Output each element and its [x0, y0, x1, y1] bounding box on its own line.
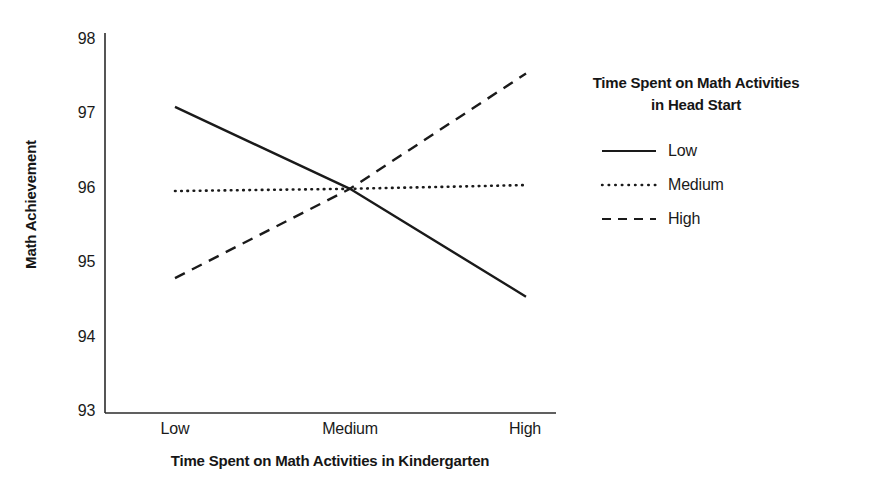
legend-entry-low[interactable]: Low — [600, 138, 697, 164]
legend-title-line-1: Time Spent on Math Activities — [536, 72, 856, 94]
legend-entry-medium[interactable]: Medium — [600, 172, 724, 198]
line-chart-figure: Math Achievement 98 97 96 95 94 93 Low M… — [0, 0, 873, 480]
legend-swatch-dashed-line-icon — [600, 213, 658, 225]
legend-title: Time Spent on Math Activities in Head St… — [536, 72, 856, 116]
series-line-high — [175, 73, 526, 278]
legend-label-high: High — [668, 210, 700, 228]
data-series-group — [175, 73, 526, 296]
legend-swatch-dotted-line-icon — [600, 179, 658, 191]
legend-title-line-2: in Head Start — [536, 94, 856, 116]
legend-swatch-solid-line-icon — [600, 145, 658, 157]
axis-spines — [105, 33, 556, 413]
legend-entry-high[interactable]: High — [600, 206, 700, 232]
legend-label-medium: Medium — [668, 176, 724, 194]
series-line-low — [175, 107, 526, 297]
legend-label-low: Low — [668, 142, 697, 160]
